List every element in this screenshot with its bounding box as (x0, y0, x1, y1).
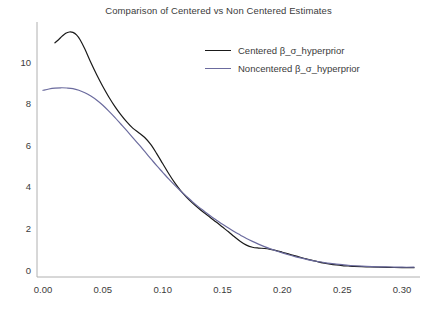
x-tick-4: 0.20 (273, 284, 292, 295)
legend-label-noncentered: Noncentered β_σ_hyperprior (238, 63, 360, 74)
legend-item-noncentered: Noncentered β_σ_hyperprior (205, 60, 420, 76)
y-tick-3: 6 (0, 139, 31, 150)
y-tick-2: 4 (0, 181, 31, 192)
chart-legend: Centered β_σ_hyperprior Noncentered β_σ_… (205, 42, 420, 78)
x-tick-6: 0.30 (393, 284, 412, 295)
x-tick-3: 0.15 (213, 284, 232, 295)
legend-line-swatch-noncentered (205, 68, 231, 69)
legend-line-swatch-centered (205, 50, 231, 51)
legend-item-centered: Centered β_σ_hyperprior (205, 42, 420, 58)
legend-label-centered: Centered β_σ_hyperprior (238, 45, 344, 56)
x-tick-2: 0.10 (153, 284, 172, 295)
y-tick-4: 8 (0, 98, 31, 109)
chart-figure: Comparison of Centered vs Non Centered E… (0, 0, 437, 309)
y-tick-1: 2 (0, 223, 31, 234)
x-tick-5: 0.25 (333, 284, 352, 295)
series-line-1 (43, 88, 414, 267)
y-tick-5: 10 (0, 56, 31, 67)
x-tick-1: 0.05 (94, 284, 113, 295)
y-tick-0: 0 (0, 264, 31, 275)
x-tick-0: 0.00 (34, 284, 53, 295)
